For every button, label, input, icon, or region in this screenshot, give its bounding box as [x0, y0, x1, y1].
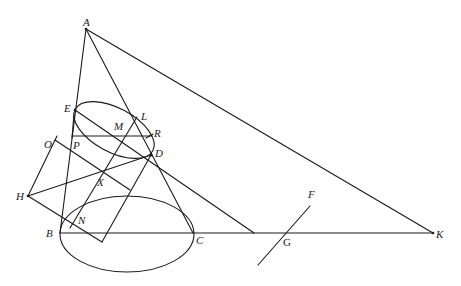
label-c: C: [196, 234, 204, 246]
label-h: H: [15, 190, 25, 202]
point-h: [27, 195, 30, 198]
label-b: B: [46, 227, 53, 239]
label-l: L: [140, 110, 147, 122]
label-x: X: [96, 176, 105, 188]
label-f: F: [307, 188, 315, 200]
line-oh: [28, 136, 57, 196]
label-p: P: [72, 139, 80, 151]
point-a: [85, 28, 88, 31]
label-a: A: [82, 16, 90, 28]
line-corner-d: [102, 155, 151, 242]
line-hd: [28, 155, 151, 196]
label-d: D: [154, 147, 163, 159]
point-k: [432, 232, 435, 235]
cone-geometry-diagram: A E L M R P O D X H N B C G F K: [0, 0, 461, 286]
label-r: R: [153, 127, 161, 139]
line-ak: [86, 29, 433, 233]
label-n: N: [77, 214, 86, 226]
label-m: M: [113, 120, 124, 132]
label-o: O: [44, 138, 52, 150]
base-ellipse-bc: [60, 196, 194, 272]
line-h-corner: [28, 196, 102, 242]
line-ac: [86, 29, 193, 233]
label-g: G: [283, 236, 291, 248]
label-k: K: [435, 228, 444, 240]
point-d: [149, 153, 152, 156]
point-e: [74, 109, 77, 112]
label-e: E: [63, 102, 71, 114]
